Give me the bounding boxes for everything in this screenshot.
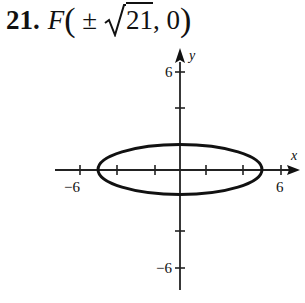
x-axis-arrow-icon — [287, 165, 300, 175]
ellipse-graph: y x −6 6 6 −6 — [0, 0, 305, 303]
ellipse-curve — [98, 145, 262, 195]
sqrt-icon: 21 — [104, 2, 153, 38]
x-axis — [55, 165, 300, 175]
x-tick-label-neg: −6 — [64, 179, 80, 195]
y-axis-arrow-icon — [175, 48, 185, 63]
problem-number: 21. — [6, 5, 40, 35]
x-axis-ticks — [80, 165, 281, 175]
coordinate-separator: , — [153, 5, 160, 35]
y-coordinate: 0 — [166, 5, 180, 35]
x-axis-label: x — [290, 148, 298, 163]
radicand: 21 — [126, 2, 153, 35]
plus-minus-sign: ± — [82, 5, 97, 35]
y-axis-label: y — [187, 48, 196, 63]
close-paren: ) — [180, 1, 191, 38]
x-tick-label-pos: 6 — [276, 179, 284, 195]
function-name: F — [48, 5, 65, 35]
open-paren: ( — [64, 1, 75, 38]
y-axis-ticks — [175, 72, 185, 268]
problem-heading: 21.F( ± 21, 0) — [6, 2, 191, 38]
y-axis — [175, 48, 185, 290]
y-tick-label-pos: 6 — [165, 64, 173, 80]
y-tick-label-neg: −6 — [156, 260, 172, 276]
